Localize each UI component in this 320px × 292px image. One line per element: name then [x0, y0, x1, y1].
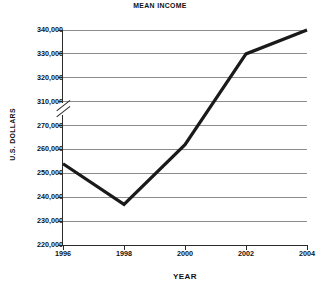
y-axis-tick-label: 250,000 [14, 168, 63, 177]
gridline [63, 173, 307, 174]
y-axis-tick-label: 270,000 [14, 121, 63, 130]
gridline [63, 53, 307, 54]
gridline [63, 30, 307, 31]
chart-container: MEAN INCOME U.S. DOLLARS YEAR 340,000330… [0, 0, 320, 292]
gridline [63, 125, 307, 126]
x-axis-tick-label: 2004 [289, 249, 320, 258]
gridline [63, 149, 307, 150]
x-axis-tick-label: 2000 [167, 249, 203, 258]
gridline [63, 221, 307, 222]
y-axis-tick-label: 230,000 [14, 216, 63, 225]
gridline [63, 197, 307, 198]
y-axis-tick-label: 320,000 [14, 73, 63, 82]
y-axis-tick-label: 220,000 [14, 240, 63, 249]
x-axis-tick-label: 2002 [228, 249, 264, 258]
x-axis-title: YEAR [63, 272, 307, 281]
y-axis-title: U.S. DOLLARS [8, 95, 17, 174]
x-axis-tick-label: 1996 [45, 249, 81, 258]
y-axis-tick-label: 330,000 [14, 49, 63, 58]
gridline [63, 77, 307, 78]
axis-break-icon [55, 99, 73, 119]
x-axis-line [62, 245, 307, 246]
y-axis-tick-label: 260,000 [14, 144, 63, 153]
x-axis-tick-label: 1998 [106, 249, 142, 258]
gridline [63, 101, 307, 102]
y-axis-tick-label: 340,000 [14, 25, 63, 34]
chart-title: MEAN INCOME [22, 1, 297, 10]
y-axis-line [62, 30, 63, 246]
y-axis-tick-label: 240,000 [14, 192, 63, 201]
